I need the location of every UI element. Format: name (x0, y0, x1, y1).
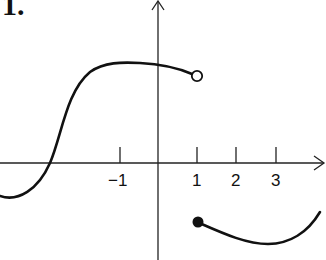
tick-label-2: 2 (231, 171, 240, 190)
tick-label-3: 3 (271, 171, 280, 190)
tick-label-1: 1 (192, 171, 201, 190)
curve-left-piece (0, 63, 192, 198)
tick-label-neg1: −1 (108, 171, 127, 190)
curve-right-piece (197, 212, 320, 244)
closed-endpoint-icon (193, 217, 204, 228)
function-graph: −1 1 2 3 (0, 0, 326, 260)
open-endpoint-icon (192, 71, 202, 81)
x-ticks (120, 147, 276, 163)
